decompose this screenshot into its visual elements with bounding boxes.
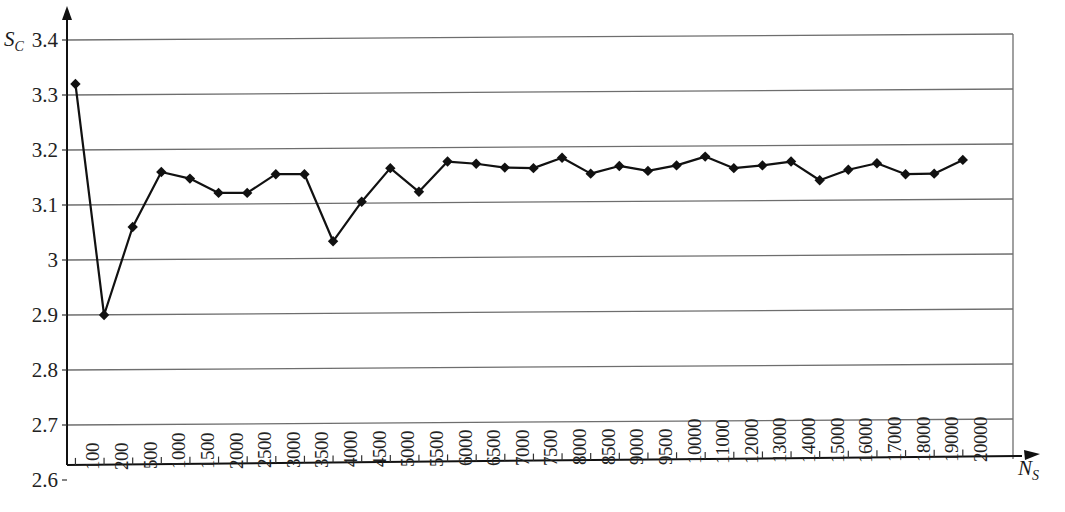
- x-tick-label: 13000: [769, 418, 791, 463]
- x-tick-label: 6000: [455, 430, 477, 466]
- x-tick-label: 5500: [426, 431, 448, 467]
- gridline: [67, 254, 1013, 260]
- x-tick-label: 20000: [970, 417, 992, 462]
- gridline: [67, 199, 1013, 205]
- y-axis-arrowhead: [62, 6, 72, 20]
- data-point-marker: [70, 79, 80, 89]
- y-tick-label: 3.1: [14, 193, 58, 218]
- data-point-marker: [958, 155, 968, 165]
- x-tick-label: 4500: [369, 431, 391, 467]
- x-tick-label: 16000: [855, 418, 877, 463]
- data-point-marker: [299, 169, 309, 179]
- x-tick-label: 3500: [311, 432, 333, 468]
- gridline: [67, 34, 1013, 40]
- data-point-marker: [528, 163, 538, 173]
- x-tick-label: 100: [82, 443, 104, 470]
- x-tick-label: 17000: [884, 417, 906, 462]
- x-axis-label: NS: [1018, 456, 1039, 484]
- y-tick-label: 3.2: [14, 138, 58, 163]
- data-point-marker: [585, 168, 595, 178]
- y-tick-label: 2.7: [14, 413, 58, 438]
- data-point-marker: [643, 166, 653, 176]
- x-tick-label: 10000: [684, 419, 706, 464]
- x-axis-label-subscript: S: [1032, 468, 1039, 483]
- x-tick-label: 18000: [913, 417, 935, 462]
- gridline: [67, 144, 1013, 150]
- data-point-marker: [614, 161, 624, 171]
- data-point-marker: [557, 153, 567, 163]
- data-point-marker: [500, 162, 510, 172]
- x-tick-label: 5000: [397, 431, 419, 467]
- data-point-marker: [671, 160, 681, 170]
- x-tick-label: 2500: [254, 432, 276, 468]
- gridline: [67, 309, 1013, 315]
- x-tick-label: 1000: [168, 433, 190, 469]
- y-axis-label-base: S: [4, 27, 15, 51]
- y-tick-label: 3.4: [14, 28, 58, 53]
- x-tick-label: 7000: [512, 430, 534, 466]
- data-point-marker: [872, 158, 882, 168]
- x-tick-label: 12000: [741, 419, 763, 464]
- data-point-marker: [843, 165, 853, 175]
- line-chart: SC NS 2.62.72.82.933.13.23.33.4 10020050…: [0, 0, 1065, 512]
- data-point-marker: [929, 168, 939, 178]
- x-tick-label: 500: [140, 442, 162, 469]
- data-point-marker: [700, 151, 710, 161]
- data-point-marker: [729, 163, 739, 173]
- x-tick-label: 11000: [712, 420, 734, 464]
- gridline: [67, 364, 1013, 370]
- y-tick-label: 2.6: [14, 468, 58, 493]
- data-point-marker: [127, 222, 137, 232]
- x-tick-label: 3000: [283, 432, 305, 468]
- data-point-marker: [99, 310, 109, 320]
- data-series-line: [75, 84, 962, 315]
- x-tick-label: 19000: [941, 417, 963, 462]
- x-tick-label: 1500: [197, 433, 219, 469]
- gridlines: [67, 34, 1013, 425]
- y-tick-label: 3.3: [14, 83, 58, 108]
- x-tick-label: 7500: [540, 430, 562, 466]
- data-point-marker: [900, 169, 910, 179]
- gridline: [67, 89, 1013, 95]
- y-tick-label: 2.9: [14, 303, 58, 328]
- x-tick-label: 8000: [569, 429, 591, 465]
- y-tick-label: 2.8: [14, 358, 58, 383]
- data-point-marker: [185, 173, 195, 183]
- data-point-marker: [156, 167, 166, 177]
- x-tick-label: 15000: [827, 418, 849, 463]
- x-axis-label-base: N: [1018, 456, 1032, 480]
- x-tick-label: 2000: [226, 433, 248, 469]
- data-point-marker: [757, 160, 767, 170]
- x-tick-label: 9500: [655, 429, 677, 465]
- x-tick-label: 6500: [483, 430, 505, 466]
- x-tick-label: 9000: [626, 429, 648, 465]
- x-tick-label: 200: [111, 443, 133, 470]
- x-tick-label: 4000: [340, 431, 362, 467]
- data-point-marker: [471, 159, 481, 169]
- x-tick-label: 14000: [798, 418, 820, 463]
- data-point-marker: [213, 188, 223, 198]
- y-tick-label: 3: [14, 248, 58, 273]
- x-tick-label: 8500: [598, 429, 620, 465]
